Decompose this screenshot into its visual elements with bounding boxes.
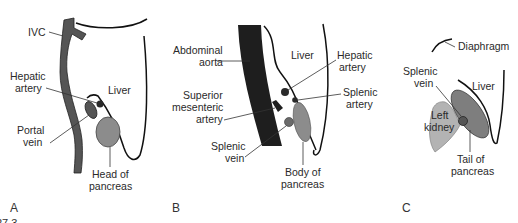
label-body-of-pancreas-2: pancreas [281,178,324,190]
label-hepatic-artery-a-1: Hepatic [10,70,46,82]
label-liver-a: Liver [108,84,131,96]
label-abdominal-aorta-1: Abdominal [173,44,223,56]
splenic-vein-b [285,118,294,127]
label-liver-b: Liver [291,49,314,61]
diaphragm-leader [445,42,455,47]
label-liver-c: Liver [472,80,495,92]
anatomy-figure: IVC Hepatic artery Liver Portal vein Hea… [0,0,518,223]
splenic-artery-b [292,97,298,103]
label-diaphragm: Diaphragm [458,40,510,52]
panel-c: Diaphragm Splenic vein Liver Left kidney… [402,39,510,215]
sma-branch [272,100,283,112]
panel-letter-c: C [402,201,411,215]
label-splenic-artery-b-1: Splenic [343,86,377,98]
label-hepatic-artery-b-2: artery [339,61,367,73]
panel-a: IVC Hepatic artery Liver Portal vein Hea… [10,18,147,215]
ivc-leader [49,32,63,36]
splenic-artery-leader-b [298,94,341,100]
panel-b: Abdominal aorta Liver Hepatic artery Sup… [172,24,377,215]
hepatic-artery-b [281,88,289,96]
hepatic-artery-leader-b [288,60,336,90]
label-tail-of-pancreas-1: Tail of [457,153,485,165]
label-superior-mesenteric-2: mesenteric [172,101,223,113]
figure-number: 27.3 [0,217,17,223]
label-tail-of-pancreas-2: pancreas [451,165,494,177]
label-head-of-pancreas-1: Head of [92,168,129,180]
ivc-vessel [60,18,86,173]
label-head-of-pancreas-2: pancreas [89,180,132,192]
label-ivc: IVC [28,26,46,38]
label-portal-vein-1: Portal [17,124,44,136]
liver-right-edge-b [314,24,328,155]
splenic-vein-c [459,117,468,126]
label-body-of-pancreas-1: Body of [285,166,321,178]
label-hepatic-artery-a-2: artery [15,82,43,94]
hepatic-artery-a [97,101,104,108]
panel-letter-b: B [172,201,180,215]
label-superior-mesenteric-3: artery [196,113,224,125]
abdominal-aorta-vessel [238,25,282,146]
label-left-kidney-2: kidney [424,121,455,133]
label-splenic-vein-b-1: Splenic [211,140,245,152]
label-splenic-vein-b-2: vein [225,152,244,164]
label-splenic-artery-b-2: artery [346,98,374,110]
label-splenic-vein-c-1: Splenic [403,65,437,77]
liver-outline-a [76,19,147,28]
label-left-kidney-1: Left [431,109,449,121]
label-abdominal-aorta-2: aorta [199,56,223,68]
label-splenic-vein-c-2: vein [414,77,433,89]
label-superior-mesenteric-1: Superior [183,89,223,101]
panel-letter-a: A [10,201,18,215]
label-hepatic-artery-b-1: Hepatic [337,49,373,61]
diaphragm-arc [432,39,452,52]
head-of-pancreas-shape [96,117,120,147]
label-portal-vein-2: vein [23,136,42,148]
